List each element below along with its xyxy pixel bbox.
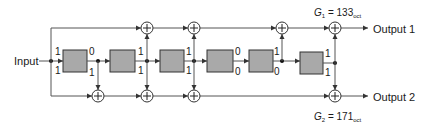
encoder-diagram: Input bbox=[0, 0, 426, 128]
svg-text:0: 0 bbox=[235, 46, 241, 57]
svg-text:0: 0 bbox=[274, 66, 280, 77]
g2-label: G2 = 171oct bbox=[314, 111, 362, 123]
svg-text:1: 1 bbox=[325, 48, 331, 59]
adder-bottom-4 bbox=[329, 90, 341, 102]
svg-text:1: 1 bbox=[186, 46, 192, 57]
svg-text:1: 1 bbox=[89, 67, 95, 78]
register-6 bbox=[300, 52, 323, 74]
svg-text:0: 0 bbox=[89, 46, 95, 57]
output2-label: Output 2 bbox=[373, 91, 415, 103]
svg-text:1: 1 bbox=[138, 46, 144, 57]
register-1 bbox=[63, 50, 87, 72]
register-3 bbox=[160, 50, 184, 72]
register-4 bbox=[207, 50, 233, 72]
adder-bottom-1 bbox=[92, 90, 104, 102]
svg-text:1: 1 bbox=[325, 67, 331, 78]
adder-bottom-3 bbox=[188, 90, 200, 102]
register-2 bbox=[110, 50, 135, 72]
adder-top-4 bbox=[329, 22, 341, 34]
adder-top-1 bbox=[141, 22, 153, 34]
output1-label: Output 1 bbox=[373, 23, 415, 35]
svg-text:1: 1 bbox=[55, 46, 61, 57]
svg-text:1: 1 bbox=[55, 65, 61, 76]
junction-dots bbox=[49, 59, 337, 65]
adder-bottom-2 bbox=[141, 90, 153, 102]
svg-text:0: 0 bbox=[235, 66, 241, 77]
svg-text:1: 1 bbox=[186, 65, 192, 76]
input-label: Input bbox=[14, 55, 38, 67]
adder-top-3 bbox=[276, 22, 288, 34]
adder-top-2 bbox=[188, 22, 200, 34]
svg-text:1: 1 bbox=[274, 46, 280, 57]
g1-label: G1 = 133oct bbox=[314, 7, 362, 19]
svg-text:1: 1 bbox=[138, 65, 144, 76]
register-5 bbox=[249, 50, 273, 72]
